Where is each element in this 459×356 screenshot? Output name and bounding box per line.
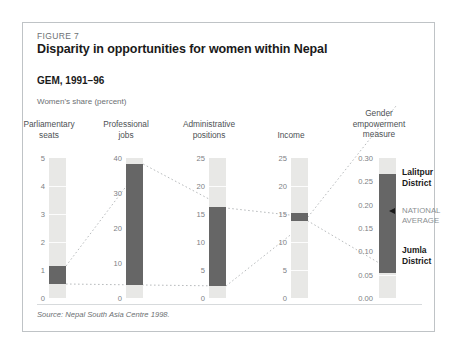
- gridline: [379, 275, 396, 276]
- tick-label: 0.05: [343, 271, 373, 280]
- tick-label: 4: [19, 182, 45, 191]
- tick-label: 0.30: [343, 154, 373, 163]
- bar-professional-jobs: [126, 164, 143, 285]
- annotation-national-average: NATIONAL AVERAGE: [402, 206, 440, 225]
- tick-label: 2: [19, 238, 45, 247]
- tick-label: 0.25: [343, 177, 373, 186]
- source-divider: [37, 304, 422, 305]
- tick-label: 5: [19, 154, 45, 163]
- tick-label: 0.20: [343, 201, 373, 210]
- connector-lines: [23, 23, 436, 333]
- chart-plot-area: Parliamentary seats 5 4 3 2 1 0 Professi…: [23, 23, 436, 333]
- tick-label: 0.15: [343, 224, 373, 233]
- tick-label: 30: [96, 189, 122, 198]
- source-note: Source: Nepal South Asia Centre 1998.: [37, 310, 170, 319]
- tick-label: 15: [261, 210, 287, 219]
- gridline: [49, 186, 66, 187]
- gridline: [291, 186, 308, 187]
- column-title-gender-empowerment-measure: Gender empowerment measure: [333, 108, 425, 140]
- gridline: [49, 214, 66, 215]
- bar-gender-empowerment-measure: [379, 174, 396, 273]
- annotation-lalitpur-district: Lalitpur District: [402, 167, 433, 188]
- tick-label: 0: [96, 294, 122, 303]
- tick-label: 40: [96, 154, 122, 163]
- tick-label: 5: [261, 266, 287, 275]
- tick-label: 0: [179, 294, 205, 303]
- bar-income: [291, 213, 308, 221]
- track-income: [291, 158, 308, 298]
- figure-panel: FIGURE 7 Disparity in opportunities for …: [22, 22, 435, 332]
- gridline: [49, 242, 66, 243]
- tick-label: 20: [96, 224, 122, 233]
- bar-administrative-positions: [209, 207, 226, 286]
- column-title-professional-jobs: Professional jobs: [80, 119, 172, 140]
- tick-label: 15: [179, 210, 205, 219]
- tick-label: 3: [19, 210, 45, 219]
- annotation-jumla-district: Jumla District: [402, 245, 431, 266]
- gridline: [209, 186, 226, 187]
- tick-label: 10: [179, 238, 205, 247]
- national-average-arrow-icon: [389, 208, 395, 214]
- tick-label: 25: [261, 154, 287, 163]
- tick-label: 0.10: [343, 247, 373, 256]
- tick-label: 20: [261, 182, 287, 191]
- tick-label: 0.00: [343, 294, 373, 303]
- column-title-administrative-positions: Administrative positions: [163, 119, 255, 140]
- tick-label: 25: [179, 154, 205, 163]
- tick-label: 1: [19, 266, 45, 275]
- column-title-income: Income: [245, 130, 337, 141]
- tick-label: 0: [261, 294, 287, 303]
- gridline: [291, 270, 308, 271]
- tick-label: 20: [179, 182, 205, 191]
- tick-label: 10: [96, 259, 122, 268]
- tick-label: 5: [179, 266, 205, 275]
- tick-label: 0: [19, 294, 45, 303]
- tick-label: 10: [261, 238, 287, 247]
- bar-parliamentary-seats: [49, 266, 66, 284]
- gridline: [291, 242, 308, 243]
